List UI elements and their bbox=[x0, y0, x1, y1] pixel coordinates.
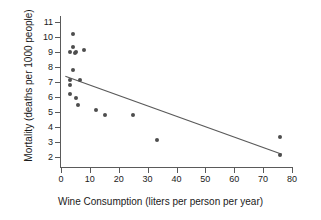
x-tick-mark bbox=[61, 168, 62, 173]
x-axis-title: Wine Consumption (liters per person per … bbox=[0, 196, 321, 207]
y-tick-label-6: 6 bbox=[35, 93, 53, 102]
y-tick-label-11: 11 bbox=[35, 18, 53, 27]
x-tick-label-20: 20 bbox=[106, 175, 132, 184]
x-tick-mark bbox=[234, 168, 235, 173]
x-tick-label-30: 30 bbox=[135, 175, 161, 184]
x-tick-mark bbox=[177, 168, 178, 173]
data-point bbox=[71, 68, 75, 72]
x-tick-mark bbox=[148, 168, 149, 173]
y-tick-mark bbox=[55, 127, 60, 128]
x-tick-label-50: 50 bbox=[192, 175, 218, 184]
data-point bbox=[68, 83, 72, 87]
data-point bbox=[68, 50, 72, 54]
y-tick-label-7: 7 bbox=[35, 78, 53, 87]
y-tick-mark bbox=[55, 97, 60, 98]
y-tick-mark bbox=[55, 112, 60, 113]
data-point bbox=[76, 103, 80, 107]
y-axis-title: Mortality (deaths per 1000 people) bbox=[23, 0, 34, 176]
data-point bbox=[155, 138, 159, 142]
y-tick-mark bbox=[55, 82, 60, 83]
y-tick-mark bbox=[55, 142, 60, 143]
x-tick-label-80: 80 bbox=[279, 175, 305, 184]
regression-trend-line bbox=[61, 14, 292, 164]
y-tick-mark bbox=[55, 52, 60, 53]
y-tick-mark bbox=[55, 157, 60, 158]
y-tick-label-9: 9 bbox=[35, 48, 53, 57]
y-tick-label-3: 3 bbox=[35, 138, 53, 147]
x-tick-label-0: 0 bbox=[48, 175, 74, 184]
y-tick-mark bbox=[55, 67, 60, 68]
x-tick-mark bbox=[119, 168, 120, 173]
data-point bbox=[68, 92, 72, 96]
y-tick-label-5: 5 bbox=[35, 108, 53, 117]
x-tick-mark bbox=[263, 168, 264, 173]
x-tick-mark bbox=[205, 168, 206, 173]
data-point bbox=[71, 32, 75, 36]
y-tick-mark bbox=[55, 37, 60, 38]
data-point bbox=[82, 48, 86, 52]
plot-area bbox=[61, 14, 292, 164]
x-tick-label-70: 70 bbox=[250, 175, 276, 184]
scatter-plot-figure: 234567891011 01020304050607080 Wine Cons… bbox=[0, 0, 321, 220]
x-tick-label-40: 40 bbox=[164, 175, 190, 184]
y-tick-label-10: 10 bbox=[35, 33, 53, 42]
x-tick-mark bbox=[90, 168, 91, 173]
data-point bbox=[103, 113, 107, 117]
y-tick-label-2: 2 bbox=[35, 153, 53, 162]
x-tick-label-60: 60 bbox=[221, 175, 247, 184]
y-tick-mark bbox=[55, 22, 60, 23]
y-tick-label-4: 4 bbox=[35, 123, 53, 132]
x-tick-label-10: 10 bbox=[77, 175, 103, 184]
y-tick-label-8: 8 bbox=[35, 63, 53, 72]
x-tick-mark bbox=[292, 168, 293, 173]
data-point bbox=[78, 78, 82, 82]
data-point bbox=[74, 96, 78, 100]
